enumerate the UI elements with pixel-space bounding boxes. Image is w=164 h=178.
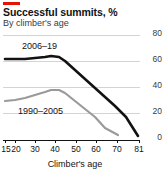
x-tick-70: 70 [111, 144, 123, 154]
y-tick-60: 60 [153, 55, 162, 64]
x-tick-mark-15 [5, 140, 6, 143]
y-tick-80: 80 [153, 29, 162, 38]
x-tick-30: 30 [29, 144, 41, 154]
x-tick-mark-20 [15, 140, 16, 143]
gridline-80 [3, 35, 140, 36]
gridline-40 [3, 87, 140, 88]
chart-subtitle: By climber's age [3, 18, 69, 28]
x-axis-title: Climber's age [0, 159, 150, 169]
series-label-1990-2005: 1990–2005 [18, 106, 63, 116]
page-title: Successful summits, % [3, 6, 118, 18]
x-tick-mark-70 [117, 140, 118, 143]
y-tick-0: 0 [157, 133, 162, 142]
x-axis-line [3, 140, 140, 141]
x-tick-60: 60 [90, 144, 102, 154]
gridline-60 [3, 61, 140, 62]
y-tick-20: 20 [153, 107, 162, 116]
x-tick-mark-50 [76, 140, 77, 143]
y-tick-40: 40 [153, 81, 162, 90]
x-tick-mark-30 [35, 140, 36, 143]
x-tick-40: 40 [49, 144, 61, 154]
x-tick-20: 20 [10, 144, 22, 154]
x-tick-mark-81 [139, 140, 140, 143]
brand-rule [3, 2, 20, 5]
chart-container: Successful summits, % By climber's age 8… [0, 0, 164, 178]
x-tick-50: 50 [70, 144, 82, 154]
series-label-2006-19: 2006–19 [22, 41, 57, 51]
x-tick-mark-40 [55, 140, 56, 143]
x-tick-81: 81 [133, 144, 145, 154]
x-tick-mark-60 [96, 140, 97, 143]
